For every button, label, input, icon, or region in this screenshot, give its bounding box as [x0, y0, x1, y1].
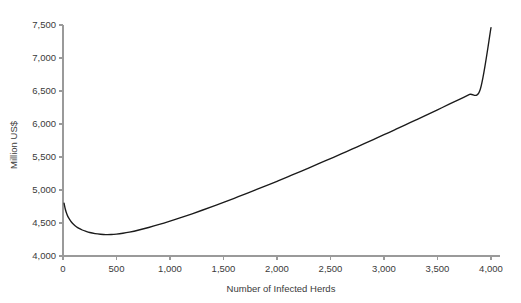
y-axis-tick-labels: 4,0004,5005,0005,5006,0006,5007,0007,500 — [32, 19, 56, 261]
y-tick-label: 6,500 — [32, 85, 56, 96]
x-axis-title: Number of Infected Herds — [227, 283, 336, 294]
y-tick-label: 4,500 — [32, 217, 56, 228]
x-axis-tick-labels: 05001,0001,5002,0002,5003,0003,5004,000 — [60, 263, 503, 274]
y-tick-label: 7,500 — [32, 19, 56, 30]
x-tick-label: 2,500 — [319, 263, 343, 274]
y-tick-label: 5,500 — [32, 151, 56, 162]
x-tick-label: 3,500 — [426, 263, 450, 274]
total-cost-curve — [64, 28, 491, 235]
y-tick-label: 7,000 — [32, 52, 56, 63]
x-tick-label: 4,000 — [479, 263, 503, 274]
x-tick-label: 500 — [109, 263, 125, 274]
y-axis-tick-marks — [59, 25, 63, 256]
y-tick-label: 6,000 — [32, 118, 56, 129]
y-tick-label: 4,000 — [32, 250, 56, 261]
y-axis-title: Million US$ — [8, 120, 19, 169]
x-tick-label: 2,000 — [265, 263, 289, 274]
x-tick-label: 1,000 — [158, 263, 182, 274]
x-tick-label: 0 — [60, 263, 65, 274]
x-tick-label: 3,000 — [372, 263, 396, 274]
cost-curve-chart: 4,0004,5005,0005,5006,0006,5007,0007,500… — [0, 0, 521, 303]
y-tick-label: 5,000 — [32, 184, 56, 195]
x-axis-tick-marks — [63, 256, 491, 260]
x-tick-label: 1,500 — [212, 263, 236, 274]
plot-area: 4,0004,5005,0005,5006,0006,5007,0007,500… — [0, 0, 521, 303]
